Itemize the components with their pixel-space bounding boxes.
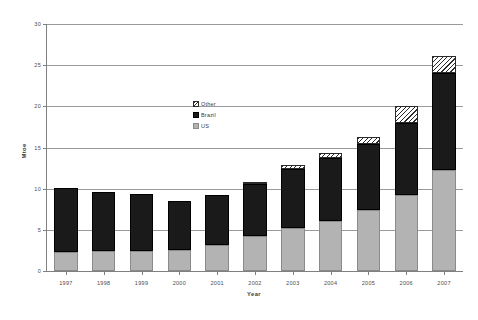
- bar-group[interactable]: [168, 24, 191, 271]
- bar-segment-us[interactable]: [243, 236, 266, 271]
- x-axis-tick-label: 1998: [97, 280, 110, 286]
- bar-segment-brazil[interactable]: [395, 123, 418, 195]
- legend-item-label: Other: [201, 101, 216, 107]
- legend-item-us[interactable]: US: [193, 123, 216, 129]
- y-axis-tick-label: 5: [38, 227, 41, 233]
- plot-area: 051015202530 199719981999200020012002200…: [46, 24, 463, 272]
- bar-group[interactable]: [432, 24, 455, 271]
- x-axis-tick-label: 2003: [286, 280, 299, 286]
- x-axis-tick: [66, 271, 67, 275]
- bar-segment-brazil[interactable]: [319, 158, 342, 221]
- x-axis-tick-label: 2004: [324, 280, 337, 286]
- bar-group[interactable]: [357, 24, 380, 271]
- bar-segment-other[interactable]: [432, 56, 455, 72]
- bar-segment-us[interactable]: [54, 252, 77, 271]
- bar-chart: 051015202530 199719981999200020012002200…: [0, 0, 478, 320]
- bar-group[interactable]: [205, 24, 228, 271]
- bar-segment-us[interactable]: [319, 221, 342, 271]
- x-axis-title: Year: [46, 291, 462, 297]
- x-axis-tick-label: 2006: [400, 280, 413, 286]
- bar-segment-other[interactable]: [243, 182, 266, 184]
- bar-segment-us[interactable]: [432, 170, 455, 271]
- bar-group[interactable]: [319, 24, 342, 271]
- bar-segment-us[interactable]: [205, 245, 228, 271]
- bar-segment-brazil[interactable]: [281, 169, 304, 228]
- x-axis-tick-label: 2007: [437, 280, 450, 286]
- legend-item-label: Brazil: [201, 112, 216, 118]
- bar-segment-brazil[interactable]: [168, 201, 191, 250]
- x-axis-tick: [293, 271, 294, 275]
- y-axis-tick: [43, 271, 47, 272]
- x-axis-tick-label: 1997: [59, 280, 72, 286]
- bar-segment-us[interactable]: [168, 250, 191, 271]
- legend-swatch-icon: [193, 112, 199, 118]
- x-axis-tick: [217, 271, 218, 275]
- chart-legend: OtherBrazilUS: [193, 101, 216, 129]
- bar-segment-brazil[interactable]: [432, 73, 455, 170]
- x-axis-tick: [142, 271, 143, 275]
- bar-segment-us[interactable]: [92, 251, 115, 271]
- bar-segment-brazil[interactable]: [130, 194, 153, 251]
- y-axis-tick-label: 10: [34, 186, 41, 192]
- legend-item-label: US: [201, 123, 209, 129]
- bar-group[interactable]: [54, 24, 77, 271]
- x-axis-tick-label: 1999: [135, 280, 148, 286]
- x-axis-tick-label: 2005: [362, 280, 375, 286]
- bar-segment-brazil[interactable]: [357, 144, 380, 210]
- legend-swatch-icon: [193, 123, 199, 129]
- bar-group[interactable]: [130, 24, 153, 271]
- x-axis-tick: [104, 271, 105, 275]
- bar-segment-other[interactable]: [357, 137, 380, 144]
- bar-segment-brazil[interactable]: [243, 184, 266, 236]
- legend-swatch-icon: [193, 101, 199, 107]
- y-axis-tick-label: 0: [38, 268, 41, 274]
- y-axis-tick-label: 20: [34, 103, 41, 109]
- bar-segment-other[interactable]: [319, 153, 342, 158]
- bar-segment-us[interactable]: [395, 195, 418, 271]
- x-axis-tick-label: 2000: [173, 280, 186, 286]
- bar-segment-us[interactable]: [130, 251, 153, 271]
- y-axis-tick-label: 25: [34, 62, 41, 68]
- bar-group[interactable]: [281, 24, 304, 271]
- x-axis-tick: [255, 271, 256, 275]
- bar-segment-us[interactable]: [357, 210, 380, 271]
- bar-segment-other[interactable]: [395, 106, 418, 123]
- x-axis-tick: [368, 271, 369, 275]
- x-axis-tick: [406, 271, 407, 275]
- bar-segment-other[interactable]: [281, 165, 304, 169]
- x-axis-tick-label: 2002: [248, 280, 261, 286]
- legend-item-brazil[interactable]: Brazil: [193, 112, 216, 118]
- y-axis-tick-label: 15: [34, 145, 41, 151]
- y-axis-tick-label: 30: [34, 21, 41, 27]
- bar-segment-brazil[interactable]: [54, 188, 77, 252]
- legend-item-other[interactable]: Other: [193, 101, 216, 107]
- bar-segment-us[interactable]: [281, 228, 304, 271]
- x-axis-tick: [331, 271, 332, 275]
- bar-group[interactable]: [243, 24, 266, 271]
- y-axis-title: Mtoe: [21, 143, 27, 158]
- bar-group[interactable]: [395, 24, 418, 271]
- bar-segment-brazil[interactable]: [92, 192, 115, 251]
- x-axis-tick: [444, 271, 445, 275]
- bar-segment-brazil[interactable]: [205, 195, 228, 245]
- bar-group[interactable]: [92, 24, 115, 271]
- x-axis-tick-label: 2001: [210, 280, 223, 286]
- x-axis-tick: [179, 271, 180, 275]
- bars-layer: [47, 24, 463, 271]
